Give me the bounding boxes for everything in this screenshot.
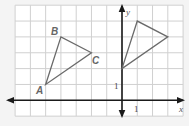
vertex-label-b: B (51, 26, 58, 37)
x-tick-label: 1 (134, 104, 139, 114)
vertex-label-a: A (35, 85, 43, 96)
y-axis-label: y (125, 7, 130, 17)
x-axis-label: x (178, 104, 183, 114)
coordinate-grid: A B C y x 1 1 (0, 0, 189, 126)
vertex-label-c: C (92, 55, 100, 66)
arrow-left-icon (6, 97, 14, 104)
y-tick-label: 1 (114, 81, 119, 91)
